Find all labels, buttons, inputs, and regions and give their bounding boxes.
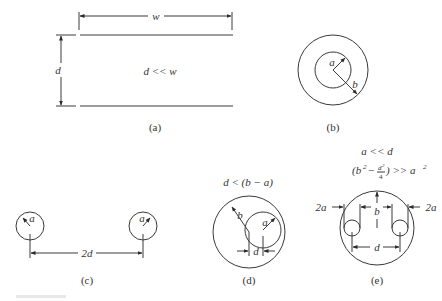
panel-label-e: (e) — [371, 274, 384, 287]
d-label: d — [253, 245, 259, 257]
2a-label-right: 2a — [426, 201, 438, 213]
panel-label-c: (c) — [81, 274, 94, 287]
a-label: a — [262, 216, 268, 228]
d-label: d — [374, 241, 380, 253]
condition-e-1: a << d — [361, 145, 393, 157]
spacing-label: 2d — [82, 247, 94, 259]
2a-label-left: 2a — [316, 201, 328, 213]
b-label: b — [352, 78, 358, 90]
d-label: d — [55, 64, 61, 76]
svg-text:2: 2 — [423, 163, 427, 171]
clipped-caption — [16, 295, 66, 298]
transmission-line-figure: w d d << w (a) a b (b) a a 2d (c) d < (b — [0, 0, 442, 301]
a-label-left: a — [29, 212, 35, 224]
svg-text:(b: (b — [352, 164, 362, 177]
panel-a-parallel-plate: w d d << w (a) — [55, 10, 233, 134]
radius-a-arrow — [333, 58, 345, 70]
panel-c-two-wire: a a 2d (c) — [16, 212, 157, 287]
b-label: b — [237, 209, 243, 221]
panel-label-d: (d) — [243, 274, 256, 287]
panel-label-a: (a) — [149, 121, 162, 134]
w-label: w — [152, 10, 160, 22]
panel-label-b: (b) — [327, 121, 340, 134]
panel-e-shielded-pair: a << d (b 2 − d 2 4 ) >> a 2 2a 2a b — [316, 145, 438, 287]
panel-d-eccentric-coax: d < (b − a) b a d (d) — [213, 176, 285, 287]
a-label-right: a — [139, 212, 145, 224]
b-label: b — [374, 205, 380, 217]
a-label: a — [329, 56, 335, 68]
svg-text:4: 4 — [379, 173, 383, 181]
condition-a: d << w — [143, 65, 177, 77]
svg-text:2: 2 — [363, 163, 367, 171]
panel-b-coaxial: a b (b) — [298, 35, 368, 134]
svg-text:2: 2 — [382, 163, 385, 168]
condition-d: d < (b − a) — [223, 176, 273, 189]
svg-text:−: − — [368, 164, 374, 176]
condition-e-2: (b 2 − d 2 4 ) >> a 2 — [352, 163, 427, 181]
svg-text:) >> a: ) >> a — [385, 164, 416, 177]
